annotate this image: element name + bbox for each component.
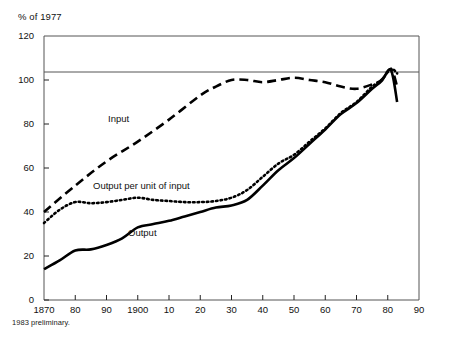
y-tick-label: 0 [8,294,34,305]
y-tick-label: 80 [8,118,34,129]
y-tick-label: 20 [8,250,34,261]
y-axis-title: % of 1977 [18,11,62,22]
x-tick-label: 60 [320,304,331,315]
series-label-output: Output [128,227,157,238]
y-tick-label: 120 [8,30,34,41]
plot-frame [44,36,419,300]
x-tick-label: 70 [351,304,362,315]
chart-figure: % of 1977 020406080100120 18708090190010… [0,0,452,338]
x-tick-label: 90 [414,304,425,315]
series-label-output-per-unit-of-input: Output per unit of input [93,180,190,191]
x-tick-label: 30 [226,304,237,315]
chart-plot-area [0,0,452,338]
y-tick-label: 40 [8,206,34,217]
x-axis-ticks [75,295,388,300]
series-label-input: Input [108,113,129,124]
x-tick-label: 80 [70,304,81,315]
data-series-group [44,69,397,269]
x-tick-label: 90 [101,304,112,315]
y-tick-label: 60 [8,162,34,173]
series-line-output-per-unit-of-input [44,69,397,223]
x-tick-label: 80 [382,304,393,315]
y-tick-label: 100 [8,74,34,85]
footnote: 1983 preliminary. [12,318,70,327]
x-tick-label: 40 [257,304,268,315]
x-tick-label: 10 [164,304,175,315]
x-tick-label: 50 [289,304,300,315]
x-tick-label: 1870 [33,304,54,315]
x-tick-label: 20 [195,304,206,315]
series-line-output [44,69,397,269]
x-tick-label: 1900 [127,304,148,315]
